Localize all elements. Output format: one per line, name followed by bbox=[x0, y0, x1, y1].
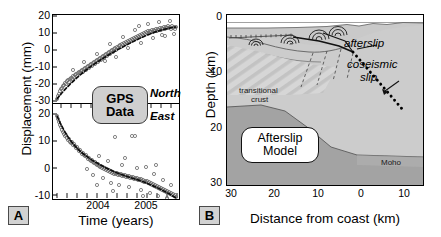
panel-b-tag: B bbox=[199, 206, 220, 225]
panel-b-cross-section-frame: afterslip coseismic slip transitional cr… bbox=[226, 14, 424, 186]
depth-tick: 30 bbox=[200, 177, 222, 188]
y-tick: -20 bbox=[24, 78, 50, 89]
distance-tick: 30 bbox=[225, 188, 237, 199]
annotation-slip: slip bbox=[360, 71, 377, 83]
y-tick: 10 bbox=[24, 135, 50, 146]
distance-tick: 10 bbox=[398, 188, 410, 199]
y-tick: -10 bbox=[24, 190, 50, 201]
gps-data-line1: GPS bbox=[106, 92, 133, 105]
x-tick: 2005 bbox=[134, 200, 157, 211]
y-tick: 0 bbox=[24, 44, 50, 55]
annotation-coseismic: coseismic bbox=[347, 58, 397, 70]
depth-tick: 10 bbox=[200, 66, 222, 77]
annotation-afterslip: afterslip bbox=[344, 37, 384, 49]
distance-tick: 20 bbox=[268, 188, 280, 199]
depth-tick: 20 bbox=[200, 122, 222, 133]
panel-a-tag: A bbox=[8, 206, 29, 225]
afterslip-model-label-box: Afterslip Model bbox=[241, 127, 319, 163]
y-tick: -30 bbox=[24, 95, 50, 106]
panel-a-gps-timeseries: Displacement (mm) 20 10 0 -10 -20 -30 20… bbox=[0, 0, 196, 237]
y-tick: 0 bbox=[24, 163, 50, 174]
gps-data-label-box: GPS Data bbox=[92, 86, 148, 124]
depth-tick: 0 bbox=[200, 11, 222, 22]
y-tick: 20 bbox=[24, 108, 50, 119]
panel-a-y-ticks-top: 20 10 0 -10 -20 -30 20 10 0 -10 bbox=[22, 0, 50, 237]
annotation-moho: Moho bbox=[381, 159, 401, 168]
annotation-crust: crust bbox=[251, 96, 268, 105]
distance-tick: 10 bbox=[312, 188, 324, 199]
figure-root: Displacement (mm) 20 10 0 -10 -20 -30 20… bbox=[0, 0, 441, 237]
gps-data-line2: Data bbox=[106, 105, 134, 118]
panel-b-x-axis-label: Distance from coast (km) bbox=[216, 212, 434, 226]
panel-b-afterslip-model: Depth (km) 0 10 20 30 bbox=[196, 0, 441, 237]
series-label-east: East bbox=[150, 111, 174, 123]
distance-tick: 0 bbox=[358, 188, 364, 199]
panel-a-x-axis-label: Time (years) bbox=[52, 214, 180, 228]
model-box-line2: Model bbox=[263, 145, 297, 158]
series-label-north: North bbox=[150, 88, 181, 100]
x-tick: 2004 bbox=[86, 200, 109, 211]
y-tick: 20 bbox=[24, 10, 50, 21]
y-tick: 10 bbox=[24, 27, 50, 38]
y-tick: -10 bbox=[24, 61, 50, 72]
east-scatter bbox=[55, 114, 177, 199]
